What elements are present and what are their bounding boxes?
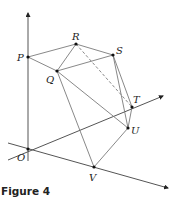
- edge-PR: [28, 44, 76, 57]
- point-T: [130, 105, 133, 108]
- axes-group: [8, 13, 168, 188]
- edge-VU: [94, 128, 128, 167]
- edge-SU: [113, 55, 128, 128]
- point-R: [74, 42, 77, 45]
- point-label-Q: Q: [46, 74, 54, 85]
- point-V: [92, 165, 95, 168]
- edge-RS: [76, 44, 113, 55]
- points-group: [26, 42, 133, 168]
- point-U: [126, 126, 129, 129]
- point-label-R: R: [71, 31, 80, 42]
- figure-diagram: PQRSTUOV: [0, 0, 181, 201]
- edges-group: [28, 44, 132, 167]
- edge-PQ: [28, 57, 57, 71]
- axis-through-T: [8, 96, 163, 160]
- figure-caption: Figure 4: [1, 185, 50, 197]
- point-S: [111, 53, 114, 56]
- labels-group: PQRSTUOV: [16, 31, 141, 183]
- point-label-O: O: [17, 152, 25, 163]
- point-label-T: T: [133, 94, 141, 105]
- point-label-V: V: [89, 172, 98, 183]
- axis-through-V: [8, 143, 168, 188]
- point-label-U: U: [131, 125, 140, 136]
- dashed-edge-RT: [76, 44, 132, 107]
- point-Q: [55, 69, 58, 72]
- point-P: [26, 55, 29, 58]
- point-O: [26, 147, 29, 150]
- point-label-S: S: [116, 45, 123, 56]
- edge-QS: [57, 55, 113, 71]
- point-label-P: P: [16, 52, 24, 63]
